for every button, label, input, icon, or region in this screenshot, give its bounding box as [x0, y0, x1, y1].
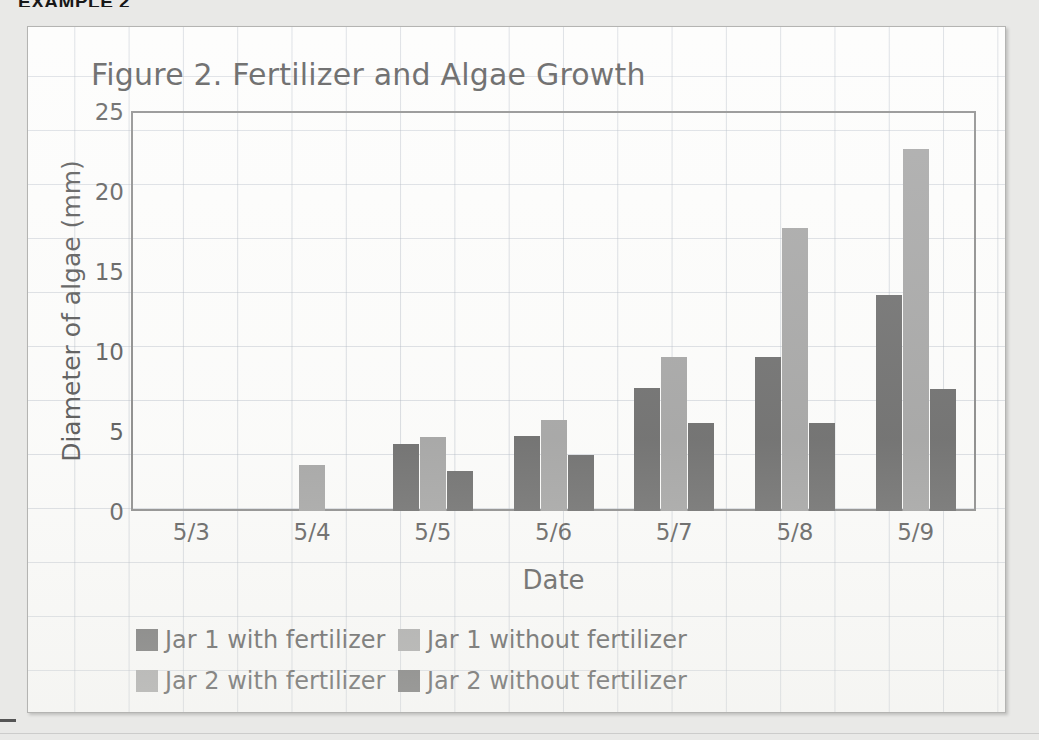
legend-item-label: Jar 1 without fertilizer — [427, 628, 687, 652]
bar[interactable] — [541, 420, 567, 511]
bar-groups — [131, 111, 976, 511]
chart-title: Figure 2. Fertilizer and Algae Growth — [91, 57, 646, 92]
page-heading: EXAMPLE 2 — [18, 0, 130, 7]
legend-swatch-jar1-without — [398, 629, 420, 651]
page-edge-mark — [0, 719, 16, 722]
bar-group — [855, 111, 976, 511]
bar[interactable] — [809, 423, 835, 511]
bar[interactable] — [299, 465, 325, 511]
y-axis-tick-label: 25 — [95, 99, 124, 125]
chart-legend: Jar 1 with fertilizerJar 1 without ferti… — [136, 619, 696, 701]
bar[interactable] — [903, 149, 929, 511]
bar[interactable] — [930, 389, 956, 511]
graph-paper-card: Figure 2. Fertilizer and Algae Growth Di… — [27, 26, 1006, 713]
legend-swatch-jar1-with — [136, 629, 158, 651]
y-axis-tick-label: 20 — [95, 179, 124, 205]
bar[interactable] — [661, 357, 687, 511]
x-axis-tick-label: 5/9 — [855, 519, 976, 545]
bar-group-bars — [855, 111, 976, 511]
legend-item-label: Jar 1 with fertilizer — [165, 628, 385, 652]
x-axis-tick-label: 5/5 — [372, 519, 493, 545]
y-axis-tick-label: 0 — [109, 499, 124, 525]
legend-item[interactable]: Jar 2 without fertilizer — [398, 669, 696, 693]
bar-group — [372, 111, 493, 511]
x-axis-title: Date — [131, 565, 976, 595]
x-axis-tick-label: 5/7 — [614, 519, 735, 545]
y-axis-tick-label: 5 — [109, 419, 124, 445]
bar[interactable] — [782, 228, 808, 511]
bar-group-bars — [735, 111, 856, 511]
bar-group-bars — [614, 111, 735, 511]
bar-group — [614, 111, 735, 511]
legend-item-label: Jar 2 with fertilizer — [165, 669, 385, 693]
bar[interactable] — [393, 444, 419, 511]
y-axis-tick-label: 15 — [95, 259, 124, 285]
bar-group-bars — [252, 111, 373, 511]
y-axis-tick-label: 10 — [95, 339, 124, 365]
bar-group-bars — [372, 111, 493, 511]
bar[interactable] — [634, 388, 660, 511]
bar-group — [252, 111, 373, 511]
bar[interactable] — [876, 295, 902, 511]
bar[interactable] — [447, 471, 473, 511]
legend-item[interactable]: Jar 2 with fertilizer — [136, 669, 398, 693]
page-canvas: EXAMPLE 2 Figure 2. Fertilizer and Algae… — [0, 0, 1039, 740]
legend-item[interactable]: Jar 1 with fertilizer — [136, 628, 398, 652]
bar-group — [735, 111, 856, 511]
legend-item[interactable]: Jar 1 without fertilizer — [398, 628, 696, 652]
x-axis-ticks: 5/35/45/55/65/75/85/9 — [131, 519, 976, 545]
bar-group-bars — [493, 111, 614, 511]
x-axis-tick-label: 5/4 — [252, 519, 373, 545]
bar[interactable] — [420, 437, 446, 511]
x-axis-tick-label: 5/8 — [735, 519, 856, 545]
legend-swatch-jar2-without — [398, 670, 420, 692]
legend-item-label: Jar 2 without fertilizer — [427, 669, 687, 693]
bar[interactable] — [688, 423, 714, 511]
bar[interactable] — [514, 436, 540, 511]
x-axis-tick-label: 5/6 — [493, 519, 614, 545]
bar[interactable] — [755, 357, 781, 511]
bar-group-bars — [131, 111, 252, 511]
bar-group — [493, 111, 614, 511]
legend-swatch-jar2-with — [136, 670, 158, 692]
page-bottom-edge — [0, 733, 1039, 734]
bar-group — [131, 111, 252, 511]
bar[interactable] — [568, 455, 594, 511]
y-axis-title: Diameter of algae (mm) — [54, 111, 88, 511]
x-axis-tick-label: 5/3 — [131, 519, 252, 545]
